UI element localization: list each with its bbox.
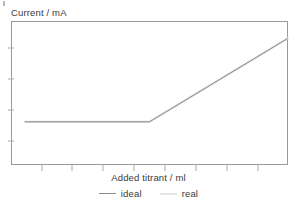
- series-real-line: [25, 38, 288, 122]
- legend-entry-ideal: ideal: [99, 188, 142, 199]
- y-axis-ticks: [8, 48, 14, 141]
- legend-swatch-ideal: [99, 193, 116, 194]
- legend-label-real: real: [182, 188, 198, 199]
- legend-label-ideal: ideal: [121, 188, 142, 199]
- corner-artifact-mark: [3, 1, 5, 6]
- y-axis-title: Current / mA: [11, 7, 67, 18]
- x-axis-ticks: [42, 165, 258, 171]
- series-ideal-line: [25, 38, 288, 122]
- plot-canvas: [11, 21, 288, 165]
- legend-entry-real: real: [160, 188, 198, 199]
- chart-figure: Current / mA Added titrant / ml: [0, 0, 297, 210]
- x-axis-title: Added titrant / ml: [0, 172, 297, 183]
- chart-legend: ideal real: [0, 188, 297, 199]
- legend-swatch-real: [160, 193, 177, 195]
